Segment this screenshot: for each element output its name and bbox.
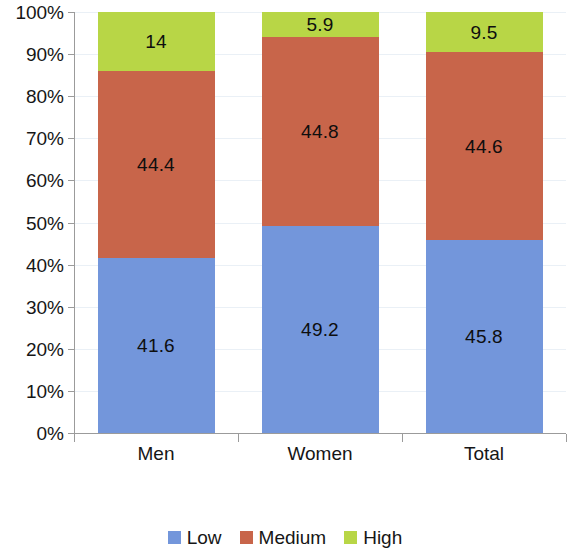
y-axis-tick-label: 20% [0,340,64,359]
bar-segment[interactable]: 44.6 [426,52,543,240]
x-axis-category-label: Total [404,444,564,463]
bar-segment[interactable]: 41.6 [98,258,215,433]
bar-segment[interactable]: 44.8 [262,37,379,226]
bar-value-label: 44.6 [465,137,503,156]
bar-segment[interactable]: 9.5 [426,12,543,52]
bar-value-label: 49.2 [301,320,339,339]
y-axis-tick [68,223,75,224]
bar-value-label: 44.8 [301,122,339,141]
legend-swatch-icon [344,531,357,544]
legend-swatch-icon [240,531,253,544]
y-axis-tick [68,12,75,13]
x-axis-tick [74,434,75,442]
legend-label: Medium [259,528,327,547]
bar-segment[interactable]: 44.4 [98,71,215,258]
legend-item[interactable]: Low [168,528,222,547]
y-axis-tick [68,349,75,350]
y-axis-tick-label: 10% [0,382,64,401]
y-axis-tick-label: 100% [0,3,64,22]
x-axis-line [74,433,566,434]
bar-group[interactable]: 45.844.69.5 [426,12,543,433]
y-axis-tick [68,96,75,97]
bar-segment[interactable]: 14 [98,12,215,71]
bar-value-label: 5.9 [306,15,333,34]
bar-value-label: 41.6 [137,336,175,355]
chart-legend: LowMediumHigh [0,528,570,547]
y-axis-tick-label: 70% [0,129,64,148]
bar-segment[interactable]: 5.9 [262,12,379,37]
y-axis-tick [68,307,75,308]
x-axis-category-label: Women [240,444,400,463]
bar-group[interactable]: 41.644.414 [98,12,215,433]
x-axis-tick [402,434,403,442]
y-axis-tick [68,180,75,181]
legend-label: Low [187,528,222,547]
bar-value-label: 14 [145,32,167,51]
bar-group[interactable]: 49.244.85.9 [262,12,379,433]
legend-label: High [363,528,402,547]
y-axis-tick [68,265,75,266]
y-axis-tick-label: 30% [0,298,64,317]
plot-area: 41.644.41449.244.85.945.844.69.5 [74,12,566,433]
bar-segment[interactable]: 45.8 [426,240,543,433]
legend-item[interactable]: Medium [240,528,327,547]
y-axis-tick [68,54,75,55]
x-axis-category-label: Men [76,444,236,463]
y-axis-tick [68,138,75,139]
x-axis-tick [238,434,239,442]
x-axis-tick [566,434,567,442]
legend-swatch-icon [168,531,181,544]
y-axis-tick [68,391,75,392]
stacked-bar-chart: 41.644.41449.244.85.945.844.69.5 0%10%20… [0,0,570,556]
bar-value-label: 44.4 [137,155,175,174]
y-axis-tick-label: 0% [0,424,64,443]
bar-segment[interactable]: 49.2 [262,226,379,433]
y-axis-tick-label: 60% [0,171,64,190]
y-axis-tick-label: 90% [0,45,64,64]
y-axis-tick-label: 80% [0,87,64,106]
bar-value-label: 9.5 [470,23,497,42]
y-axis-tick-label: 50% [0,214,64,233]
y-axis-tick-label: 40% [0,256,64,275]
legend-item[interactable]: High [344,528,402,547]
bar-value-label: 45.8 [465,327,503,346]
